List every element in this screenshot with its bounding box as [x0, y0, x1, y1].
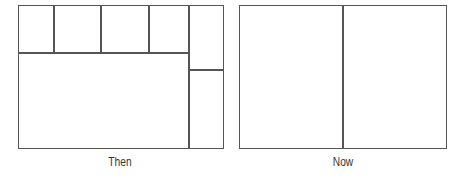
then-right-column-divider [188, 6, 190, 148]
then-top-row-divider [19, 52, 189, 54]
now-caption: Now [318, 155, 369, 169]
then-top-divider-1 [53, 6, 55, 53]
now-center-divider [342, 6, 344, 148]
now-layout-panel [239, 5, 447, 149]
then-top-divider-3 [148, 6, 150, 53]
then-right-column-split [189, 69, 223, 71]
then-caption: Then [95, 155, 146, 169]
then-layout-panel [18, 5, 224, 149]
then-top-divider-2 [100, 6, 102, 53]
